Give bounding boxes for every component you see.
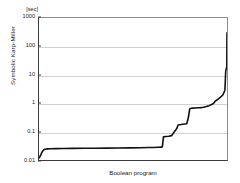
y-axis-tick-label: 1000 (7, 14, 35, 20)
y-axis-tick-label: 0.01 (7, 158, 35, 164)
y-axis-tick-mark (38, 103, 41, 104)
plot-area (38, 17, 228, 161)
y-axis-tick-label: 0.1 (7, 129, 35, 135)
y-axis-tick-mark (38, 45, 41, 46)
series-line-symbolic-karp-miller (39, 18, 227, 160)
y-axis-tick-mark (38, 74, 41, 75)
y-axis-tick-label: 100 (7, 43, 35, 49)
y-axis-title: Symbolic Karp-Miller (9, 6, 16, 106)
y-axis-tick-label: 1 (7, 101, 35, 107)
y-axis-tick-mark (38, 161, 41, 162)
y-axis-tick-label: 10 (7, 72, 35, 78)
y-axis-tick-mark (38, 17, 41, 18)
y-axis-unit-label: [sec] (22, 6, 38, 12)
y-axis-tick-mark (38, 132, 41, 133)
x-axis-title: Boolean program (38, 169, 228, 176)
chart-figure: [sec] Symbolic Karp-Miller 10001001010.1… (0, 0, 240, 183)
